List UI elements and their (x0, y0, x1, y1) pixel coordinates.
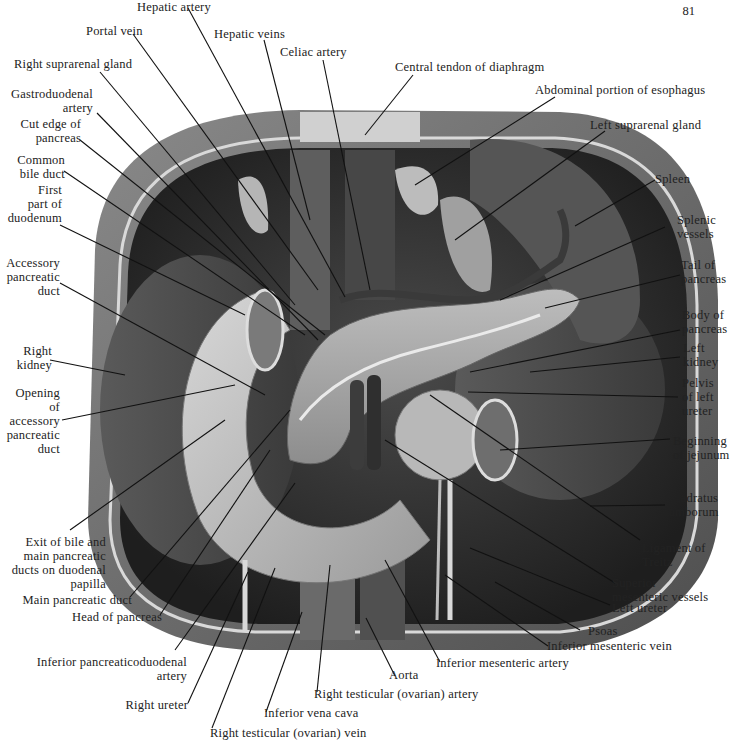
superior-mesenteric-vein (367, 375, 381, 470)
label-opening-accessory-duct: Opening of accessory pancreatic duct (0, 386, 60, 456)
label-first-part-duodenum: First part of duodenum (0, 183, 62, 225)
label-accessory-pancreatic-duct: Accessory pancreatic duct (0, 256, 60, 298)
label-psoas: Psoas (588, 624, 617, 638)
label-left-kidney: Left kidney (683, 341, 718, 369)
label-right-kidney: Right kidney (0, 344, 52, 372)
label-right-ureter: Right ureter (0, 698, 188, 712)
label-central-tendon: Central tendon of diaphragm (395, 60, 544, 74)
first-part-of-duodenum (247, 290, 283, 370)
label-splenic-vessels: Splenic vessels (677, 213, 716, 241)
superior-mesenteric-vessels (350, 380, 364, 470)
label-common-bile-duct: Common bile duct (0, 153, 65, 181)
label-head-of-pancreas: Head of pancreas (0, 610, 162, 624)
label-hepatic-veins: Hepatic veins (214, 27, 285, 41)
anatomy-figure: 81 Hepatic artery Portal vein Hepatic ve… (0, 0, 735, 741)
label-gastroduodenal-artery: Gastroduodenal artery (0, 87, 93, 115)
label-main-pancreatic-duct: Main pancreatic duct (0, 593, 132, 607)
label-abdominal-esophagus: Abdominal portion of esophagus (535, 83, 705, 97)
aorta-upper (345, 150, 395, 300)
label-portal-vein: Portal vein (86, 24, 143, 38)
label-left-suprarenal-gland: Left suprarenal gland (590, 118, 701, 132)
central-tendon-of-diaphragm (300, 112, 420, 142)
label-left-ureter: Left ureter (612, 601, 667, 615)
jejunum (395, 390, 485, 480)
label-right-testicular-artery: Right testicular (ovarian) artery (314, 687, 479, 701)
label-right-testicular-vein: Right testicular (ovarian) vein (210, 726, 367, 740)
inferior-vena-cava-upper (290, 150, 330, 330)
label-exit-bile-ducts: Exit of bile and main pancreatic ducts o… (0, 535, 106, 591)
label-tail-of-pancreas: Tail of pancreas (681, 258, 726, 286)
label-cut-edge-pancreas: Cut edge of pancreas (0, 117, 81, 145)
label-inferior-mesenteric-artery: Inferior mesenteric artery (436, 656, 569, 670)
label-pelvis-left-ureter: Pelvis of left ureter (682, 376, 714, 418)
label-beginning-jejunum: Beginning of jejunum (673, 434, 730, 462)
label-hepatic-artery: Hepatic artery (137, 0, 211, 14)
label-inferior-vena-cava: Inferior vena cava (264, 706, 359, 720)
label-spleen: Spleen (655, 172, 690, 186)
label-celiac-artery: Celiac artery (280, 45, 347, 59)
anatomy-illustration (0, 0, 735, 741)
label-right-suprarenal-gland: Right suprarenal gland (14, 57, 132, 71)
page-number: 81 (683, 4, 696, 19)
label-ligament-treitz: Ligament of Treitz (642, 541, 706, 569)
label-quadratus-lumborum: Quadratus lumborum (665, 491, 719, 519)
label-aorta: Aorta (389, 668, 418, 682)
label-inferior-mesenteric-vein: Inferior mesenteric vein (547, 639, 672, 653)
label-superior-mesenteric-vessels: Superior mesenteric vessels (612, 576, 708, 604)
label-body-of-pancreas: Body of pancreas (682, 308, 727, 336)
label-inferior-pancreaticoduodenal-artery: Inferior pancreaticoduodenal artery (0, 655, 187, 683)
